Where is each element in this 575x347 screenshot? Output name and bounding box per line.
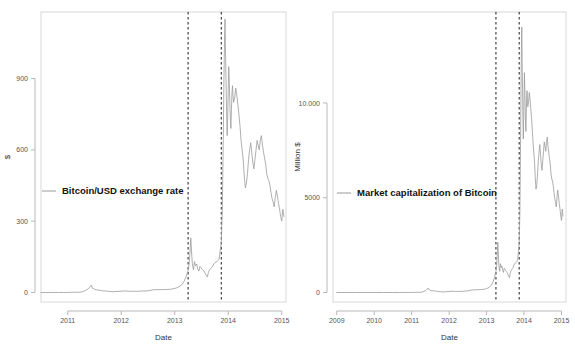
x-tick-label-left-4: 2015 (274, 317, 290, 324)
plot-frame-right (333, 12, 566, 302)
y-tick-label-right-1: 5000 (304, 194, 320, 201)
legend-left: Bitcoin/USD exchange rate (42, 185, 183, 196)
chart-canvas: 0300600900$20112012201320142015DateBitco… (0, 0, 575, 347)
y-tick-label-left-1: 300 (16, 218, 28, 225)
y-axis-title-left: $ (3, 154, 12, 159)
y-tick-label-right-2: 10.000 (299, 100, 321, 107)
x-tick-label-right-2: 2011 (404, 317, 419, 324)
x-tick-label-right-5: 2014 (516, 317, 532, 324)
chart-panel-right: 0500010.000Million $20092010201120122013… (293, 12, 569, 342)
x-tick-label-left-1: 2012 (113, 317, 129, 324)
y-axis-left: 0300600900$ (3, 75, 35, 296)
legend-right: Market capitalization of Bitcoin (337, 187, 497, 198)
x-tick-label-left-0: 2011 (60, 317, 75, 324)
y-tick-label-right-0: 0 (316, 289, 320, 296)
x-tick-label-right-3: 2012 (441, 317, 457, 324)
x-tick-label-left-3: 2014 (220, 317, 236, 324)
x-tick-label-right-6: 2015 (554, 317, 570, 324)
x-axis-title-right: Date (441, 333, 458, 342)
x-axis-left: 20112012201320142015Date (60, 311, 289, 342)
y-axis-right: 0500010.000Million $ (293, 100, 327, 297)
bitcoin-figure: 0300600900$20112012201320142015DateBitco… (0, 0, 575, 347)
legend-label-left: Bitcoin/USD exchange rate (62, 185, 183, 196)
chart-panel-left: 0300600900$20112012201320142015DateBitco… (3, 12, 290, 342)
y-tick-label-left-0: 0 (24, 289, 28, 296)
plot-frame-left (41, 12, 286, 302)
x-tick-label-right-0: 2009 (329, 317, 345, 324)
data-line-left-0 (41, 19, 284, 292)
x-tick-label-right-4: 2013 (479, 317, 495, 324)
x-tick-label-left-2: 2013 (167, 317, 183, 324)
x-axis-right: 2009201020112012201320142015Date (329, 311, 569, 342)
x-axis-title-left: Date (155, 333, 172, 342)
y-tick-label-left-2: 600 (16, 146, 28, 153)
x-tick-label-right-1: 2010 (366, 317, 382, 324)
legend-label-right: Market capitalization of Bitcoin (357, 187, 497, 198)
y-axis-title-right: Million $ (293, 142, 302, 172)
data-line-right-0 (337, 27, 563, 292)
y-tick-label-left-3: 900 (16, 75, 28, 82)
